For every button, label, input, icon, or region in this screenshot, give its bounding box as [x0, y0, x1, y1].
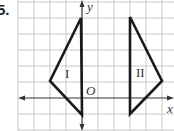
y-axis-up-arrow-icon [80, 0, 85, 7]
x-axis-label: x [166, 101, 173, 116]
coordinate-plane: y x O I II [0, 0, 174, 131]
triangle-I-label: I [65, 66, 69, 81]
triangle-II-label: II [136, 65, 145, 80]
x-axis [18, 96, 174, 101]
y-axis-label: y [85, 0, 93, 14]
origin-label: O [86, 83, 96, 98]
grid-lines [18, 0, 174, 131]
x-axis-right-arrow-icon [167, 96, 174, 101]
x-axis-left-arrow-icon [18, 96, 25, 101]
